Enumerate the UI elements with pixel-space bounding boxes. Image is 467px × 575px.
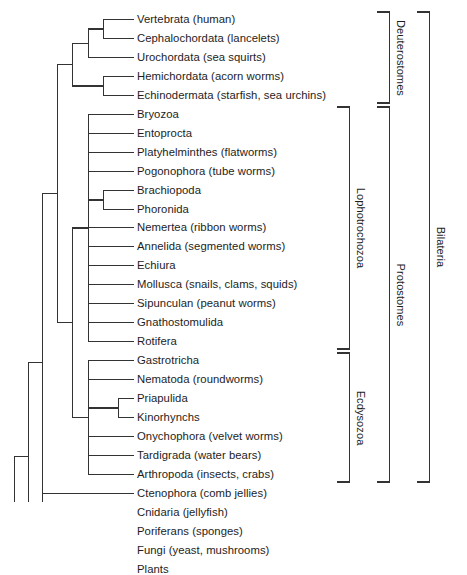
leaf-label-brachiopoda: Brachiopoda	[137, 185, 201, 196]
leaf-label-gastrotricha: Gastrotricha	[137, 355, 199, 366]
leaf-label-urochordata: Urochordata (sea squirts)	[137, 52, 266, 63]
leaf-label-cephalochordata: Cephalochordata (lancelets)	[137, 33, 280, 44]
branch-layer	[15, 20, 134, 503]
leaf-label-poriferans: Poriferans (sponges)	[137, 526, 243, 537]
leaf-label-plants: Plants	[137, 564, 169, 575]
clade-label-bilateria: Bilateria	[435, 227, 447, 268]
clade-label-protostomes: Protostomes	[395, 263, 407, 326]
leaf-label-phoronida: Phoronida	[137, 204, 189, 215]
clade-label-deuterostomes: Deuterostomes	[395, 20, 407, 96]
clade-label-lophotrochozoa: Lophotrochozoa	[355, 188, 367, 268]
leaf-label-onychophora: Onychophora (velvet worms)	[137, 431, 283, 442]
leaf-label-platyhelminthes: Platyhelminthes (flatworms)	[137, 147, 277, 158]
leaf-label-echinodermata: Echinodermata (starfish, sea urchins)	[137, 90, 326, 101]
leaf-label-annelida: Annelida (segmented worms)	[137, 241, 285, 252]
clade-label-ecdysozoa: Ecdysozoa	[355, 390, 367, 445]
leaf-label-fungi: Fungi (yeast, mushrooms)	[137, 545, 269, 556]
leaf-label-mollusca: Mollusca (snails, clams, squids)	[137, 279, 297, 290]
leaf-label-nematoda: Nematoda (roundworms)	[137, 374, 263, 385]
clade-bracket-layer	[338, 12, 430, 482]
leaf-label-tardigrada: Tardigrada (water bears)	[137, 450, 261, 461]
leaf-label-priapulida: Priapulida	[137, 393, 188, 404]
leaf-label-sipunculan: Sipunculan (peanut worms)	[137, 298, 276, 309]
leaf-label-gnathostomulida: Gnathostomulida	[137, 317, 223, 328]
leaf-label-arthropoda: Arthropoda (insects, crabs)	[137, 469, 274, 480]
leaf-label-pogonophora: Pogonophora (tube worms)	[137, 166, 275, 177]
leaf-label-entoprocta: Entoprocta	[137, 128, 192, 139]
leaf-label-nemertea: Nemertea (ribbon worms)	[137, 222, 266, 233]
leaf-label-kinorhynchs: Kinorhynchs	[137, 412, 200, 423]
leaf-label-cnidaria: Cnidaria (jellyfish)	[137, 507, 228, 518]
leaf-label-echiura: Echiura	[137, 260, 176, 271]
leaf-label-bryozoa: Bryozoa	[137, 109, 179, 120]
leaf-label-vertebrata: Vertebrata (human)	[137, 14, 235, 25]
leaf-label-ctenophora: Ctenophora (comb jellies)	[137, 488, 267, 499]
leaf-label-hemichordata: Hemichordata (acorn worms)	[137, 71, 284, 82]
leaf-label-rotifera: Rotifera	[137, 336, 177, 347]
